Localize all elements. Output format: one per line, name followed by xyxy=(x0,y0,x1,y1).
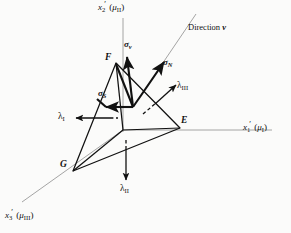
sigma-S-text: σS xyxy=(98,88,106,98)
axis-label-x1: x1′ (μI) xyxy=(243,123,267,132)
annotation-direction-nu: Direction ν xyxy=(188,23,226,32)
vertex-label-E: E xyxy=(181,116,187,126)
vector-label-sigma-S: σS xyxy=(98,89,106,98)
vector-label-sigma-N: σN xyxy=(163,58,172,67)
label-lambda-III: λIII xyxy=(177,81,188,91)
lambda-I-text: λI xyxy=(58,111,65,121)
sigma-nu-text: σν xyxy=(124,39,132,49)
axis-label-x2: x2′ (μII) xyxy=(98,3,124,12)
vertex-label-F: F xyxy=(105,53,111,63)
vertex-G-text: G xyxy=(60,159,67,169)
vector-label-sigma-nu: σν xyxy=(124,40,132,49)
label-lambda-II: λII xyxy=(120,184,129,194)
axis-label-x3-text: x3′ (μIII) xyxy=(5,210,33,220)
principal-stress-layer xyxy=(0,0,291,233)
lambda-III-text: λIII xyxy=(177,80,188,90)
arrow-lambda-III xyxy=(155,85,176,104)
vertex-F-text: F xyxy=(105,52,111,62)
axis-label-x2-text: x2′ (μII) xyxy=(98,2,124,12)
label-lambda-I: λI xyxy=(58,112,65,122)
axis-label-x1-text: x1′ (μI) xyxy=(243,122,267,132)
vertex-label-G: G xyxy=(60,160,67,170)
stress-tetrahedron-figure: x2′ (μII) x1′ (μI) x3′ (μIII) F E G σν σ… xyxy=(0,0,291,233)
arrow-lambda-III-dash xyxy=(143,103,156,114)
vertex-E-text: E xyxy=(181,115,187,125)
direction-nu-text: Direction ν xyxy=(188,22,226,32)
lambda-II-text: λII xyxy=(120,183,129,193)
sigma-N-text: σN xyxy=(163,57,172,67)
axis-label-x3: x3′ (μIII) xyxy=(5,211,33,220)
